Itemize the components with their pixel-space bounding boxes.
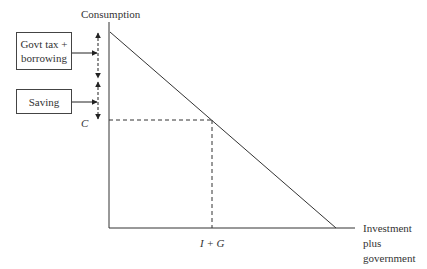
govt-tax-borrowing-box: Govt tax + borrowing [16,32,72,70]
box-line: Saving [29,95,60,109]
consumption-marker-label: C [81,117,88,130]
x-axis-label-line: plus [363,236,416,251]
y-axis-label: Consumption [81,8,140,21]
saving-box: Saving [16,89,72,114]
x-axis-label: Investment plus government [363,221,416,266]
investment-marker-label: I + G [200,237,225,250]
tradeoff-line [110,32,336,228]
x-axis-label-line: government [363,251,416,266]
box-line: Govt tax + [20,37,67,51]
box-line: borrowing [20,51,67,65]
x-axis-label-line: Investment [363,221,416,236]
